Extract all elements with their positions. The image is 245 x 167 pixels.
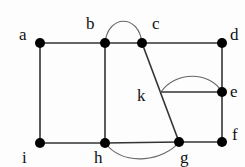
node-g (174, 137, 184, 147)
node-f (217, 137, 227, 147)
node-b (100, 38, 110, 48)
node-label-b: b (86, 14, 95, 33)
node-label-g: g (180, 148, 189, 167)
node-label-c: c (152, 14, 160, 33)
node-label-e: e (230, 82, 238, 101)
edge-h-g (105, 142, 179, 143)
node-e (217, 87, 227, 97)
node-c (137, 38, 147, 48)
node-label-k: k (137, 86, 146, 105)
curved-edge-k-e (161, 76, 222, 92)
node-a (35, 38, 45, 48)
node-label-a: a (19, 25, 27, 44)
node-label-h: h (94, 148, 103, 167)
graph-diagram: abcdefghik (0, 0, 245, 167)
graph-svg: abcdefghik (0, 0, 245, 167)
node-label-i: i (22, 148, 27, 167)
node-label-d: d (230, 25, 239, 44)
curved-edge-h-g (105, 142, 179, 159)
node-d (217, 38, 227, 48)
node-h (100, 138, 110, 148)
node-label-f: f (232, 125, 238, 144)
node-i (35, 138, 45, 148)
curved-edge-b-c (105, 21, 142, 43)
